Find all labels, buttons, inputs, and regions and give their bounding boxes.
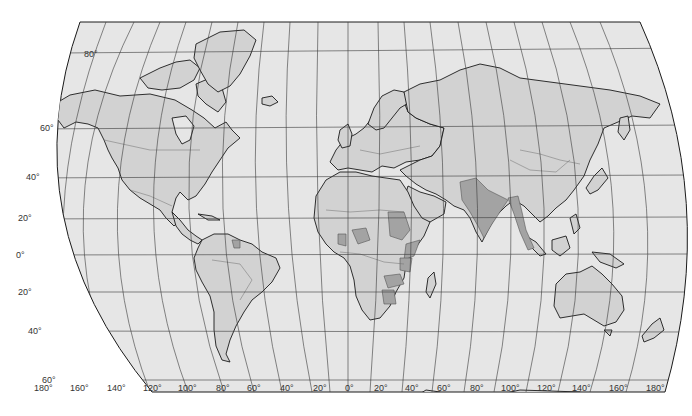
- lon-label-40w: 40°: [280, 383, 294, 393]
- lon-label-80e: 80°: [470, 383, 484, 393]
- lon-label-60e: 60°: [437, 383, 451, 393]
- lon-label-20w: 20°: [313, 383, 327, 393]
- lon-label-40e: 40°: [405, 383, 419, 393]
- lon-label-160w: 160°: [70, 383, 89, 393]
- lon-label-140w: 140°: [107, 383, 126, 393]
- lat-label-0: 0°: [16, 250, 25, 260]
- lon-label-20e: 20°: [374, 383, 388, 393]
- lon-label-120w: 120°: [143, 383, 162, 393]
- lon-label-180w: 180°: [34, 383, 53, 393]
- lon-label-60w: 60°: [247, 383, 261, 393]
- lon-label-140e: 140°: [572, 383, 591, 393]
- lat-label-40s: 40°: [28, 326, 42, 336]
- lat-label-20s: 20°: [18, 287, 32, 297]
- lat-label-40n: 40°: [26, 172, 40, 182]
- lat-label-80n: 80°: [84, 49, 98, 59]
- ghana: [338, 234, 346, 246]
- lat-label-20n: 20°: [18, 213, 32, 223]
- world-map: 80° 60° 40° 20° 0° 20° 40° 60° 180° 160°…: [0, 0, 692, 416]
- lon-label-80w: 80°: [216, 383, 230, 393]
- lon-label-160e: 160°: [609, 383, 628, 393]
- lat-label-60n: 60°: [40, 123, 54, 133]
- lon-label-180e: 180°: [646, 383, 665, 393]
- lon-label-0: 0°: [345, 383, 354, 393]
- lon-label-120e: 120°: [537, 383, 556, 393]
- lon-label-100w: 100°: [178, 383, 197, 393]
- lon-label-100e: 100°: [501, 383, 520, 393]
